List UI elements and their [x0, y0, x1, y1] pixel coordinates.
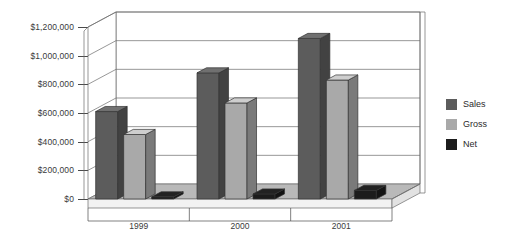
legend-swatch-gross-icon — [446, 119, 457, 130]
floor-front-edge — [88, 199, 392, 208]
bar-gross-2001-front — [326, 80, 348, 199]
bar-gross-2000-side — [247, 98, 257, 199]
bar-sales-2001-front — [298, 38, 320, 199]
bar-gross-2000-front — [225, 103, 247, 199]
bar-sales-1999-front — [96, 112, 118, 199]
bar-gross-2001-side — [348, 75, 358, 199]
legend: SalesGrossNet — [446, 96, 487, 156]
legend-label: Gross — [463, 120, 487, 129]
bar-net-2000-front — [253, 194, 275, 199]
legend-item-net[interactable]: Net — [446, 136, 487, 152]
bar-gross-1999-side — [146, 129, 156, 199]
legend-item-gross[interactable]: Gross — [446, 116, 487, 132]
legend-swatch-net-icon — [446, 139, 457, 150]
legend-item-sales[interactable]: Sales — [446, 96, 487, 112]
legend-swatch-sales-icon — [446, 99, 457, 110]
plot-area-3d — [0, 0, 517, 243]
bar-sales-2000-front — [197, 73, 219, 199]
legend-label: Sales — [463, 100, 486, 109]
chart-container: $0$200,000$400,000$600,000$800,000$1,000… — [0, 0, 517, 243]
outer-left-top — [84, 27, 88, 31]
legend-label: Net — [463, 140, 477, 149]
bar-gross-1999-front — [124, 135, 146, 200]
bar-net-2001-front — [354, 190, 376, 199]
